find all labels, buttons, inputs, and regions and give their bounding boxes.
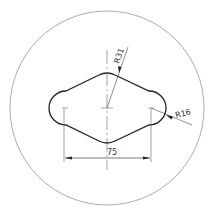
dimension-text-r31: R31 xyxy=(112,47,126,65)
arrow-right-icon xyxy=(143,157,150,160)
dimension-text-r16: R16 xyxy=(174,107,191,120)
dimension-text-75: 75 xyxy=(107,148,117,157)
arrow-left-icon xyxy=(65,157,72,160)
arrow-r31-icon xyxy=(118,66,122,73)
drawing-canvas: 75 R31 R16 xyxy=(0,0,210,216)
